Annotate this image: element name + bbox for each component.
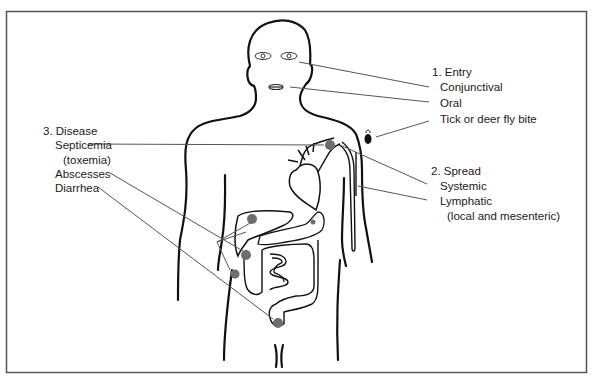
entry-heading: 1. Entry [432,65,472,79]
pancreas-icon [258,212,324,245]
disease-heading: 3. Disease [43,124,97,138]
disease-diarrhea-label: Diarrhea [55,181,99,195]
disease-septicemia-label: Septicemia [55,138,112,152]
entry-conjunctival-label: Conjunctival [440,80,503,94]
entry-oral-label: Oral [440,96,462,110]
spread-systemic-label: Systemic [440,179,487,193]
lymph-vessel-icon [338,142,356,251]
mouth-icon [269,85,283,90]
leader-lines [88,62,429,319]
intestines-icon [244,240,318,326]
spread-lymphatic-detail-label: (local and mesenteric) [447,209,560,223]
disease-toxemia-label: (toxemia) [63,153,111,167]
diagram-canvas: 1. Entry Conjunctival Oral Tick or deer … [0,0,593,386]
human-body-outline-icon [178,20,372,367]
spread-heading: 2. Spread [431,164,481,178]
entry-tick-bite-label: Tick or deer fly bite [440,112,537,126]
tick-icon [365,130,372,144]
disease-abscesses-label: Abscesses [55,167,111,181]
spread-lymphatic-label: Lymphatic [440,194,492,208]
eyes-icon [255,53,297,60]
